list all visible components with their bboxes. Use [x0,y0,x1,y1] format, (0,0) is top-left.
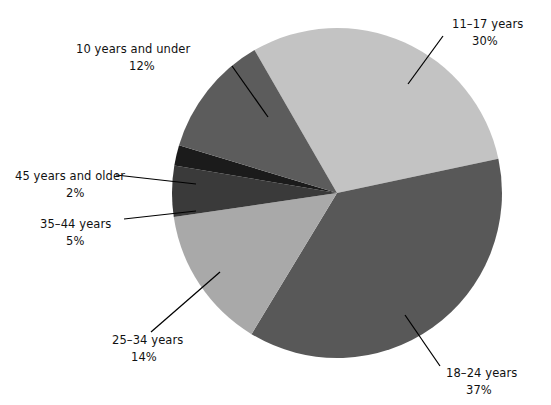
slice-label-percent: 2% [66,186,84,200]
slice-label-percent: 5% [66,234,84,248]
slice-label-name: 10 years and under [76,42,191,56]
slice-label-name: 45 years and older [15,169,125,183]
slice-label-name: 18–24 years [446,366,517,380]
slice-label-percent: 30% [472,34,498,48]
pie-chart-canvas: 11–17 years30%18–24 years37%25–34 years1… [0,0,551,405]
slice-label-percent: 14% [131,350,157,364]
slice-label-percent: 12% [129,59,155,73]
slice-label-name: 35–44 years [40,217,111,231]
slice-label-name: 11–17 years [452,17,523,31]
pie-chart-figure: 11–17 years30%18–24 years37%25–34 years1… [0,0,551,405]
slice-label-name: 25–34 years [112,333,183,347]
slice-label-percent: 37% [466,383,492,397]
pie-slices-group [172,28,502,358]
